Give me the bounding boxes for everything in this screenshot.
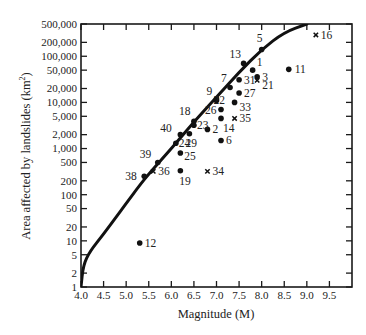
- dot-marker-icon: [227, 85, 233, 91]
- y-tick-label: 5,000: [52, 110, 77, 122]
- x-tick-label: 4.5: [97, 289, 111, 301]
- data-point-6: 6: [218, 134, 232, 146]
- point-label: 38: [125, 170, 137, 182]
- data-points: 1235679111213141819222324252627293133383…: [125, 29, 332, 249]
- data-point-29: 29: [185, 131, 197, 149]
- dot-marker-icon: [137, 240, 143, 246]
- point-label: 31: [244, 74, 256, 86]
- dot-marker-icon: [173, 140, 179, 146]
- point-label: 21: [262, 79, 274, 91]
- y-tick-label: 500,000: [41, 18, 77, 30]
- point-label: 12: [145, 237, 157, 249]
- point-label: 14: [223, 122, 235, 134]
- y-tick-label: 100,000: [41, 50, 77, 62]
- x-tick-label: 9.0: [300, 289, 314, 301]
- scatter-chart: 1251020501002005001,0002,0005,00010,0002…: [0, 0, 366, 335]
- y-tick-label: 10,000: [47, 96, 78, 108]
- dot-marker-icon: [286, 67, 292, 73]
- data-point-39: 39: [140, 148, 161, 165]
- y-tick-label: 200: [61, 175, 78, 187]
- point-label: 36: [158, 165, 170, 177]
- y-tick-label: 50: [66, 202, 78, 214]
- data-point-35: 35: [232, 112, 251, 124]
- point-label: 13: [230, 48, 242, 60]
- data-point-27: 27: [236, 87, 256, 99]
- point-label: 11: [295, 63, 306, 75]
- data-point-40: 40: [160, 122, 183, 138]
- data-point-12: 12: [137, 237, 157, 249]
- dot-marker-icon: [236, 90, 242, 96]
- x-tick-label: 7.0: [210, 289, 224, 301]
- dot-marker-icon: [218, 138, 224, 144]
- data-point-16: 16: [314, 29, 333, 41]
- point-label: 2: [212, 123, 218, 135]
- data-point-19: 19: [178, 168, 192, 187]
- dot-marker-icon: [236, 77, 242, 83]
- x-tick-label: 7.5: [232, 289, 246, 301]
- dot-marker-icon: [187, 131, 193, 137]
- y-tick-label: 20: [66, 221, 78, 233]
- data-point-11: 11: [286, 63, 306, 75]
- point-label: 5: [257, 32, 263, 44]
- point-label: 9: [207, 85, 213, 97]
- point-label: 40: [160, 122, 172, 134]
- x-tick-label: 9.5: [323, 289, 337, 301]
- y-tick-label: 10: [66, 235, 78, 247]
- y-tick-label: 50,000: [47, 64, 78, 76]
- dot-marker-icon: [191, 122, 197, 128]
- data-point-5: 5: [257, 32, 265, 53]
- x-marker-icon: [232, 116, 236, 120]
- x-tick-label: 8.0: [255, 289, 269, 301]
- point-label: 27: [244, 87, 256, 99]
- y-tick-label: 20,000: [47, 82, 78, 94]
- dot-marker-icon: [241, 61, 247, 67]
- dot-marker-icon: [259, 47, 265, 53]
- y-tick-label: 500: [61, 156, 78, 168]
- x-tick-label: 5.5: [142, 289, 156, 301]
- dot-marker-icon: [178, 132, 184, 138]
- x-tick-label: 5.0: [119, 289, 133, 301]
- y-tick-label: 100: [61, 189, 78, 201]
- dot-marker-icon: [250, 67, 256, 73]
- point-label: 39: [140, 148, 152, 160]
- data-point-14: 14: [218, 116, 235, 135]
- data-point-18: 18: [179, 105, 197, 124]
- dot-marker-icon: [141, 174, 147, 180]
- data-point-13: 13: [230, 48, 247, 66]
- plot-frame: [81, 24, 352, 287]
- dot-marker-icon: [218, 107, 224, 113]
- dot-marker-icon: [178, 150, 184, 156]
- dot-marker-icon: [218, 116, 224, 122]
- y-tick-label: 200,000: [41, 36, 77, 48]
- point-label: 23: [197, 119, 209, 131]
- data-point-31: 31: [236, 74, 256, 86]
- dot-marker-icon: [178, 168, 184, 174]
- y-tick-label: 1,000: [52, 142, 77, 154]
- x-marker-icon: [314, 33, 318, 37]
- point-label: 34: [212, 165, 224, 177]
- point-label: 25: [184, 150, 196, 162]
- y-tick-label: 2,000: [52, 128, 77, 140]
- x-tick-label: 6.5: [187, 289, 201, 301]
- point-label: 19: [179, 175, 191, 187]
- plot-border: [81, 24, 352, 287]
- y-tick-label: 2: [72, 267, 78, 279]
- data-point-33: 33: [232, 100, 252, 114]
- y-axis-ticks: 1251020501002005001,0002,0005,00010,0002…: [41, 18, 352, 293]
- dot-marker-icon: [232, 100, 238, 106]
- x-axis-title: Magnitude (M): [178, 307, 255, 321]
- point-label: 29: [185, 137, 197, 149]
- y-tick-label: 5: [72, 249, 78, 261]
- point-label: 16: [321, 29, 333, 41]
- data-point-34: 34: [205, 165, 224, 177]
- y-axis-title: Area affected by landslides (km2): [18, 72, 33, 240]
- point-label: 26: [205, 104, 217, 116]
- point-label: 1: [257, 56, 263, 68]
- point-label: 6: [226, 134, 232, 146]
- x-tick-label: 6.0: [164, 289, 178, 301]
- point-label: 35: [240, 112, 252, 124]
- point-label: 7: [221, 72, 227, 84]
- x-tick-label: 8.5: [277, 289, 291, 301]
- x-tick-label: 4.0: [74, 289, 88, 301]
- x-marker-icon: [205, 169, 209, 173]
